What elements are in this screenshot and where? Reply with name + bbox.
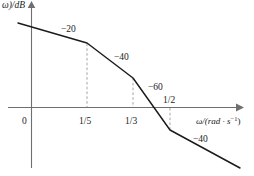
x-tick-label-2: 1/3 (125, 116, 137, 126)
x-axis-label-main: ω/(rad · s (196, 116, 231, 126)
slope-label-1: −20 (61, 24, 76, 34)
x-axis-label-close: ) (238, 116, 241, 126)
origin-tick-label: 0 (22, 116, 27, 126)
y-axis-arrowhead (28, 1, 36, 8)
x-tick-label-1: 1/5 (79, 116, 91, 126)
x-tick-label-3: 1/2 (163, 95, 175, 105)
slope-label-2: −40 (114, 52, 129, 62)
magnitude-curve (18, 23, 240, 168)
slope-label-4: −40 (193, 134, 208, 144)
plot-canvas: ω)/dB 0 1/5 1/3 1/2 −20 −40 −60 −40 ω/(r… (0, 0, 254, 176)
y-axis-label: ω)/dB (2, 0, 25, 11)
x-axis-label: ω/(rad · s−1) (196, 115, 241, 126)
x-axis-arrowhead (236, 104, 244, 112)
x-axis-label-exponent: −1 (231, 115, 238, 122)
bode-plot-figure: ω)/dB 0 1/5 1/3 1/2 −20 −40 −60 −40 ω/(r… (0, 0, 254, 176)
slope-label-3: −60 (148, 82, 163, 92)
